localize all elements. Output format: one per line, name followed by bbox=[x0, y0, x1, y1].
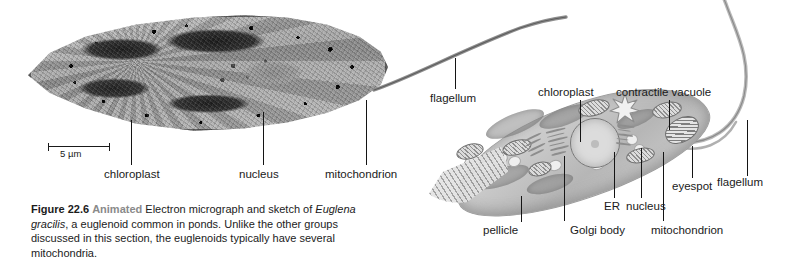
leader-line-mitochondrion-micrograph bbox=[366, 100, 367, 165]
label-chloroplast-micrograph: chloroplast bbox=[104, 168, 160, 181]
leader-line-nucleus-sketch bbox=[641, 148, 642, 198]
scale-bar: 5 µm bbox=[48, 146, 110, 158]
label-er-sketch: ER bbox=[604, 200, 620, 213]
label-pellicle-sketch: pellicle bbox=[483, 224, 518, 237]
micrograph-flagellum-shape bbox=[370, 16, 570, 96]
label-contractile-vacuole-sketch: contractile vacuole bbox=[616, 86, 711, 99]
figure-caption: Figure 22.6 Animated Electron micrograph… bbox=[31, 202, 361, 258]
leader-line-contractile-vacuole-sketch bbox=[669, 100, 670, 130]
label-flagellum-sketch: flagellum bbox=[717, 176, 763, 189]
scale-bar-right-cap bbox=[109, 143, 110, 151]
animated-badge: Animated bbox=[92, 203, 142, 215]
leader-line-flagellum-sketch bbox=[747, 120, 748, 176]
label-mitochondrion-sketch: mitochondrion bbox=[651, 224, 723, 237]
leader-line-chloroplast-micrograph bbox=[131, 120, 132, 165]
caption-text-part1: Electron micrograph and sketch of bbox=[142, 203, 315, 215]
scale-bar-left-cap bbox=[48, 143, 49, 151]
figure-22-6: 5 µm chloroplast nucleus mitochondrion f… bbox=[0, 0, 794, 258]
leader-line-eyespot-sketch bbox=[692, 146, 693, 178]
figure-number: Figure 22.6 bbox=[31, 203, 89, 215]
leader-line-flagellum-micrograph bbox=[455, 58, 456, 89]
sketch-nucleolus bbox=[591, 140, 599, 148]
leader-line-nucleus-micrograph bbox=[263, 112, 264, 165]
label-mitochondrion-micrograph: mitochondrion bbox=[325, 168, 397, 181]
leader-line-pellicle-sketch bbox=[521, 196, 522, 222]
label-eyespot-sketch: eyespot bbox=[672, 180, 712, 193]
leader-line-chloroplast-sketch bbox=[580, 100, 581, 142]
leader-line-golgi-sketch bbox=[564, 156, 565, 221]
label-nucleus-sketch: nucleus bbox=[626, 200, 666, 213]
caption-text-part2: , a euglenoid common in ponds. Unlike th… bbox=[31, 218, 338, 258]
label-golgi-body-sketch: Golgi body bbox=[570, 224, 625, 237]
micrograph-pellicle-rim bbox=[28, 14, 388, 132]
label-nucleus-micrograph: nucleus bbox=[239, 168, 279, 181]
leader-line-er-sketch bbox=[614, 152, 615, 198]
label-chloroplast-sketch: chloroplast bbox=[538, 86, 594, 99]
scale-bar-label: 5 µm bbox=[60, 148, 81, 159]
electron-micrograph bbox=[28, 14, 388, 132]
